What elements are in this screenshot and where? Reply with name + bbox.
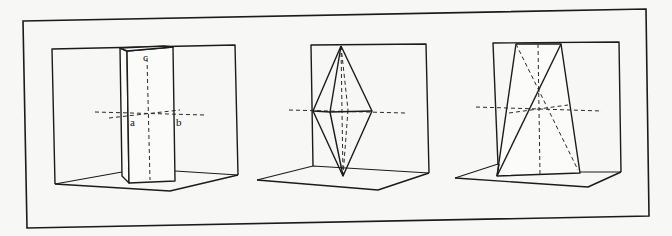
panel-2-hidden-edge-2 — [341, 46, 348, 110]
panel-3-floor-back-edge — [455, 164, 498, 178]
panel-1: c a b — [52, 45, 238, 191]
panel-2 — [257, 44, 429, 190]
crystal-axes-figure: c a b — [0, 0, 672, 236]
panel-1-floor-back-edge-right — [175, 171, 238, 175]
panel-1-label-b: b — [176, 116, 182, 128]
panel-1-floor-back-edge-left — [55, 172, 122, 184]
panel-1-prism-front-face — [127, 47, 175, 183]
panel-1-label-c: c — [143, 51, 148, 63]
panel-2-bipyramid-equator — [313, 111, 372, 112]
panel-2-back-wall — [311, 44, 429, 173]
panel-3 — [455, 42, 621, 187]
panel-1-label-a: a — [130, 116, 135, 128]
